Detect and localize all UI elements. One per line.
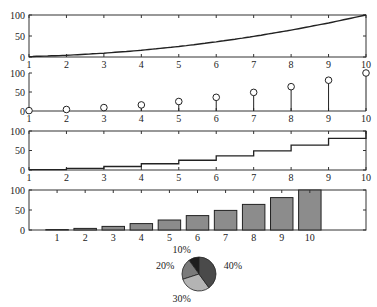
stem-marker	[101, 104, 108, 111]
x-tick-label: 2	[64, 113, 69, 124]
stem-marker	[325, 77, 332, 84]
bar-plot: 12345678910050100	[10, 185, 366, 244]
y-tick-label: 50	[15, 87, 25, 98]
x-tick-label: 2	[83, 232, 88, 243]
y-tick-label: 0	[20, 225, 25, 236]
stem-marker	[175, 98, 182, 105]
x-tick-label: 5	[176, 59, 181, 70]
x-tick-label: 4	[139, 59, 144, 70]
bar	[186, 216, 208, 230]
x-tick-label: 10	[361, 172, 371, 183]
y-tick-label: 100	[10, 126, 25, 137]
x-tick-label: 1	[27, 172, 32, 183]
x-tick-label: 2	[64, 59, 69, 70]
stem-plot: 05010012345678910	[10, 68, 371, 125]
x-tick-label: 7	[251, 59, 256, 70]
x-tick-label: 3	[101, 172, 106, 183]
y-tick-label: 100	[10, 10, 25, 21]
x-tick-label: 9	[326, 172, 331, 183]
bar	[214, 210, 236, 230]
x-tick-label: 7	[251, 113, 256, 124]
x-tick-label: 1	[55, 232, 60, 243]
x-tick-label: 4	[139, 113, 144, 124]
x-tick-label: 8	[289, 113, 294, 124]
stem-marker	[213, 94, 220, 101]
y-tick-label: 100	[10, 68, 25, 79]
x-tick-label: 2	[64, 172, 69, 183]
x-tick-label: 10	[361, 59, 371, 70]
x-tick-label: 9	[279, 232, 284, 243]
x-tick-label: 8	[251, 232, 256, 243]
x-tick-label: 9	[326, 113, 331, 124]
x-tick-label: 3	[111, 232, 116, 243]
x-tick-label: 1	[27, 59, 32, 70]
pie-label: 30%	[173, 293, 191, 304]
y-tick-label: 100	[10, 185, 25, 196]
x-tick-label: 1	[27, 113, 32, 124]
bar	[271, 198, 293, 230]
stem-marker	[288, 83, 295, 90]
x-tick-label: 8	[289, 172, 294, 183]
bar	[299, 190, 321, 230]
bar	[102, 226, 124, 230]
y-tick-label: 50	[15, 205, 25, 216]
stem-marker	[363, 70, 370, 77]
line-plot: 05010012345678910	[10, 10, 371, 71]
stem-marker	[138, 102, 145, 109]
pie-label: 20%	[156, 260, 174, 271]
x-tick-label: 6	[214, 59, 219, 70]
stem-marker	[26, 107, 33, 114]
y-tick-label: 50	[15, 145, 25, 156]
x-tick-label: 3	[101, 113, 106, 124]
data-line	[29, 15, 366, 57]
x-tick-label: 6	[214, 113, 219, 124]
pie-chart: 10%20%30%40%	[156, 244, 242, 304]
x-tick-label: 6	[214, 172, 219, 183]
bar	[74, 228, 96, 230]
axes-box	[29, 15, 366, 57]
x-tick-label: 5	[167, 232, 172, 243]
stairs-line	[29, 131, 366, 170]
axes-box	[29, 131, 366, 170]
x-tick-label: 3	[101, 59, 106, 70]
x-tick-label: 8	[289, 59, 294, 70]
stem-marker	[250, 89, 257, 96]
stairs-plot: 05010012345678910	[10, 126, 371, 184]
bar	[158, 220, 180, 230]
x-tick-label: 10	[305, 232, 315, 243]
x-tick-label: 7	[251, 172, 256, 183]
y-tick-label: 0	[20, 165, 25, 176]
y-tick-label: 0	[20, 106, 25, 117]
x-tick-label: 6	[195, 232, 200, 243]
pie-label: 40%	[224, 260, 242, 271]
y-tick-label: 0	[20, 52, 25, 63]
x-tick-label: 7	[223, 232, 228, 243]
stem-marker	[63, 106, 70, 113]
x-tick-label: 4	[139, 232, 144, 243]
bar	[242, 204, 264, 230]
x-tick-label: 4	[139, 172, 144, 183]
bar	[130, 224, 152, 230]
figure: 05010012345678910 05010012345678910 0501…	[0, 0, 377, 307]
pie-label: 10%	[173, 244, 191, 255]
x-tick-label: 10	[361, 113, 371, 124]
x-tick-label: 5	[176, 113, 181, 124]
y-tick-label: 50	[15, 31, 25, 42]
x-tick-label: 5	[176, 172, 181, 183]
x-tick-label: 9	[326, 59, 331, 70]
